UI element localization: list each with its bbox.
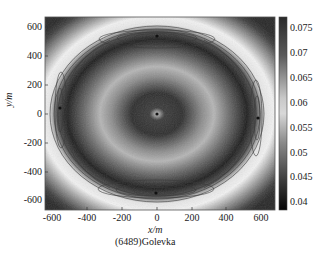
colorbar-tick-label: 0.055 <box>290 123 313 133</box>
colorbar-tick-label: 0.06 <box>290 98 308 108</box>
xtick-label: 0 <box>140 213 174 223</box>
colorbar <box>279 17 287 210</box>
xtick-label: -600 <box>35 213 69 223</box>
ytick-label: 400 <box>8 51 42 61</box>
ytick-label: -600 <box>8 195 42 205</box>
xtick-label: -200 <box>105 213 139 223</box>
equilibrium-point-bottom <box>154 191 157 194</box>
colorbar-tick-label: 0.05 <box>290 148 308 158</box>
ytick-label: -400 <box>8 167 42 177</box>
figure: 600 400 200 0 -200 -400 -600 -600 -400 -… <box>0 0 326 255</box>
colorbar-tick-label: 0.065 <box>290 73 313 83</box>
xtick-label: 200 <box>175 213 209 223</box>
equilibrium-point-left <box>58 106 61 109</box>
ytick-label: 0 <box>8 109 42 119</box>
xtick-label: -400 <box>70 213 104 223</box>
figure-caption: (6489)Golevka <box>115 236 176 247</box>
colorbar-tick-label: 0.075 <box>290 23 313 33</box>
xtick-label: 600 <box>244 213 278 223</box>
equilibrium-point-center <box>155 112 158 115</box>
ytick-label: 200 <box>8 80 42 90</box>
equilibrium-point-right <box>256 116 259 119</box>
heatmap <box>45 17 275 210</box>
colorbar-tick-label: 0.045 <box>290 172 313 182</box>
colorbar-tick-label: 0.04 <box>290 197 308 207</box>
xtick-label: 400 <box>209 213 243 223</box>
ytick-label: 600 <box>8 22 42 32</box>
x-axis-label: x/m <box>148 224 162 235</box>
ytick-label: -200 <box>8 138 42 148</box>
equilibrium-point-top <box>155 34 158 37</box>
y-axis-label: y/m <box>3 93 14 107</box>
colorbar-tick-label: 0.07 <box>290 48 308 58</box>
